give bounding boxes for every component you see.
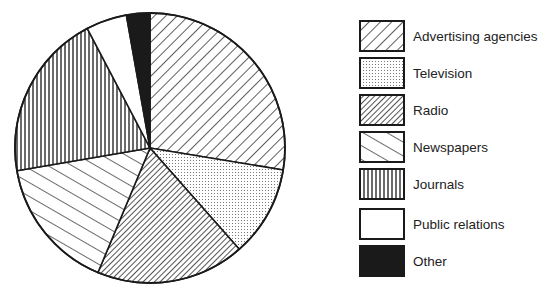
legend-label: Newspapers [413,140,488,155]
legend-item-advertising-agencies: Advertising agencies [359,20,548,52]
legend-label: Television [413,66,472,81]
legend-label: Radio [413,103,448,118]
hatch-wide-swatch-icon [359,20,405,52]
dots-swatch-icon [359,57,405,89]
legend-item-other: Other [359,245,548,277]
pie-slices [15,13,285,283]
legend-label: Other [413,254,447,269]
solid-swatch-icon [359,245,405,277]
blank-swatch-icon [359,208,405,240]
hatch-dense-swatch-icon [359,94,405,126]
legend-label: Public relations [413,217,505,232]
legend-item-public-relations: Public relations [359,208,548,240]
vertical-lines-swatch-icon [359,168,405,200]
legend-item-radio: Radio [359,94,548,126]
pie-slice-advertising-agencies [150,13,285,170]
legend-item-journals: Journals [359,168,548,200]
legend-label: Journals [413,177,464,192]
pie-chart [0,0,300,298]
legend-item-television: Television [359,57,548,89]
legend-label: Advertising agencies [413,29,538,44]
hatch-back-swatch-icon [359,131,405,163]
legend-item-newspapers: Newspapers [359,131,548,163]
